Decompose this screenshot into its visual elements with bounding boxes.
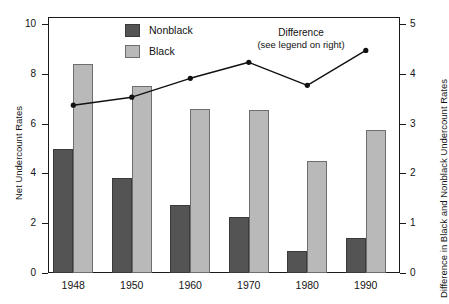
legend-label-black: Black bbox=[149, 46, 175, 57]
legend-label-nonblack: Nonblack bbox=[149, 25, 193, 36]
y-axis-right-tick-label: 0 bbox=[410, 268, 430, 278]
x-axis-tick-label: 1950 bbox=[102, 280, 162, 291]
x-axis-tick-label: 1948 bbox=[43, 280, 103, 291]
bar-nonblack-1980 bbox=[287, 251, 307, 273]
y-axis-right-tick-label: 1 bbox=[410, 218, 430, 228]
y-axis-right-tick-mark bbox=[400, 74, 406, 75]
y-axis-left-tick-mark bbox=[42, 24, 48, 25]
y-axis-right-tick-label: 4 bbox=[410, 69, 430, 79]
y-axis-right-tick-mark bbox=[400, 173, 406, 174]
difference-annotation: Difference (see legend on right) bbox=[232, 27, 370, 51]
bar-black-1990 bbox=[366, 130, 386, 273]
y-axis-left-tick-label: 0 bbox=[10, 268, 36, 278]
bar-nonblack-1960 bbox=[170, 205, 190, 273]
y-axis-right-tick-mark bbox=[400, 124, 406, 125]
y-axis-left-title: Net Undercount Rates bbox=[13, 106, 24, 200]
difference-annotation-line2: (see legend on right) bbox=[232, 39, 370, 51]
bar-black-1980 bbox=[307, 161, 327, 273]
y-axis-right-tick-label: 3 bbox=[410, 119, 430, 129]
y-axis-left-tick-mark bbox=[42, 124, 48, 125]
bar-black-1960 bbox=[190, 109, 210, 273]
difference-annotation-line1: Difference bbox=[232, 27, 370, 39]
y-axis-right-tick-label: 2 bbox=[410, 168, 430, 178]
legend-swatch-black bbox=[125, 45, 140, 58]
y-axis-right-tick-mark bbox=[400, 223, 406, 224]
bar-nonblack-1970 bbox=[229, 217, 249, 273]
y-axis-left-tick-mark bbox=[42, 273, 48, 274]
bar-black-1950 bbox=[132, 86, 152, 273]
x-axis-tick-label: 1970 bbox=[219, 280, 279, 291]
y-axis-left-tick-mark bbox=[42, 173, 48, 174]
bar-black-1948 bbox=[73, 64, 93, 273]
bar-black-1970 bbox=[249, 110, 269, 273]
y-axis-right-tick-label: 5 bbox=[410, 19, 430, 29]
y-axis-left-tick-mark bbox=[42, 223, 48, 224]
legend: Nonblack Black bbox=[125, 22, 235, 64]
y-axis-left-tick-mark bbox=[42, 74, 48, 75]
bar-nonblack-1990 bbox=[346, 238, 366, 273]
x-axis-tick-label: 1960 bbox=[160, 280, 220, 291]
x-axis-tick-label: 1990 bbox=[336, 280, 396, 291]
y-axis-left-tick-label: 8 bbox=[10, 69, 36, 79]
y-axis-left-tick-label: 2 bbox=[10, 218, 36, 228]
legend-swatch-nonblack bbox=[125, 24, 140, 37]
y-axis-left-tick-label: 10 bbox=[10, 19, 36, 29]
y-axis-right-tick-mark bbox=[400, 273, 406, 274]
legend-item-nonblack: Nonblack bbox=[125, 22, 235, 39]
bar-nonblack-1948 bbox=[53, 149, 73, 274]
y-axis-right-title: Difference in Black and Nonblack Underco… bbox=[438, 79, 449, 298]
legend-item-black: Black bbox=[125, 43, 235, 60]
x-axis-tick-label: 1980 bbox=[277, 280, 337, 291]
bar-nonblack-1950 bbox=[112, 178, 132, 273]
y-axis-right-tick-mark bbox=[400, 24, 406, 25]
